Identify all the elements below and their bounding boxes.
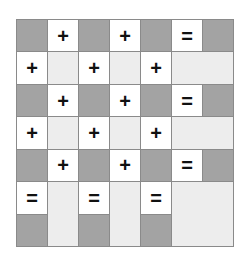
number-cell[interactable] xyxy=(203,150,233,181)
plus-operator-cell: + xyxy=(48,150,78,181)
number-cell[interactable] xyxy=(17,85,47,116)
equals-icon: = xyxy=(181,91,193,111)
plus-icon: + xyxy=(57,26,69,46)
plus-operator-cell: + xyxy=(48,20,78,51)
equals-icon: = xyxy=(181,155,193,175)
equals-operator-cell: = xyxy=(141,182,171,213)
result-cell[interactable] xyxy=(110,117,140,148)
number-cell[interactable] xyxy=(17,20,47,51)
plus-icon: + xyxy=(150,123,162,143)
number-cell[interactable] xyxy=(203,20,233,51)
result-cell[interactable] xyxy=(110,182,140,246)
equals-operator-cell: = xyxy=(172,85,202,116)
plus-operator-cell: + xyxy=(110,85,140,116)
equals-icon: = xyxy=(26,188,38,208)
plus-operator-cell: + xyxy=(17,52,47,83)
plus-icon: + xyxy=(119,91,131,111)
result-cell[interactable] xyxy=(48,117,78,148)
number-cell[interactable] xyxy=(79,215,109,246)
plus-icon: + xyxy=(57,91,69,111)
number-cell[interactable] xyxy=(203,85,233,116)
result-cell[interactable] xyxy=(48,182,78,246)
number-cell[interactable] xyxy=(141,215,171,246)
equals-icon: = xyxy=(181,26,193,46)
plus-operator-cell: + xyxy=(141,117,171,148)
plus-icon: + xyxy=(119,26,131,46)
plus-icon: + xyxy=(150,58,162,78)
equals-icon: = xyxy=(88,188,100,208)
plus-operator-cell: + xyxy=(79,117,109,148)
plus-operator-cell: + xyxy=(48,85,78,116)
result-cell[interactable] xyxy=(172,117,233,148)
number-cell[interactable] xyxy=(79,20,109,51)
number-cell[interactable] xyxy=(141,20,171,51)
plus-operator-cell: + xyxy=(110,20,140,51)
result-cell[interactable] xyxy=(172,182,233,246)
number-cell[interactable] xyxy=(79,150,109,181)
plus-icon: + xyxy=(119,155,131,175)
number-cell[interactable] xyxy=(17,215,47,246)
plus-operator-cell: + xyxy=(79,52,109,83)
puzzle-grid: ++=+++++=+++++==== xyxy=(16,19,234,247)
plus-operator-cell: + xyxy=(141,52,171,83)
plus-icon: + xyxy=(88,123,100,143)
plus-icon: + xyxy=(26,123,38,143)
plus-operator-cell: + xyxy=(17,117,47,148)
plus-icon: + xyxy=(26,58,38,78)
equals-operator-cell: = xyxy=(79,182,109,213)
number-cell[interactable] xyxy=(141,150,171,181)
result-cell[interactable] xyxy=(48,52,78,83)
number-cell[interactable] xyxy=(79,85,109,116)
number-cell[interactable] xyxy=(141,85,171,116)
result-cell[interactable] xyxy=(110,52,140,83)
plus-icon: + xyxy=(57,155,69,175)
equals-operator-cell: = xyxy=(172,150,202,181)
plus-operator-cell: + xyxy=(110,150,140,181)
result-cell[interactable] xyxy=(172,52,233,83)
equals-icon: = xyxy=(150,188,162,208)
number-cell[interactable] xyxy=(17,150,47,181)
equals-operator-cell: = xyxy=(172,20,202,51)
plus-icon: + xyxy=(88,58,100,78)
equals-operator-cell: = xyxy=(17,182,47,213)
